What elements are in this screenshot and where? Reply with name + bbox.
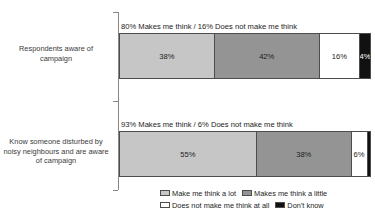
- legend-item-does-not-make-me-think-at-all[interactable]: Does not make me think at all: [160, 199, 269, 211]
- bar-respondents-aware: 38%42%16%4%: [119, 33, 371, 79]
- legend-item-make-me-think-a-lot[interactable]: Make me think a lot: [160, 187, 236, 199]
- bar-annotation-respondents-aware: 80% Makes me think / 16% Does not make m…: [121, 22, 297, 31]
- axis-tick-top: [113, 12, 118, 13]
- legend-swatch-icon: [160, 202, 170, 208]
- legend-item-label: Does not make me think at all: [172, 201, 269, 210]
- bar-segment-does-not-make-me-think-at-all: 6%: [351, 131, 367, 177]
- bar-segment-does-not-make-me-think-at-all: 16%: [319, 33, 360, 79]
- bar-segment-value: 55%: [180, 150, 195, 159]
- legend-swatch-icon: [242, 190, 252, 196]
- legend-item-don-t-know[interactable]: Don't know: [275, 199, 323, 211]
- legend-item-makes-me-think-a-little[interactable]: Makes me think a little: [242, 187, 327, 199]
- category-label-know-someone-disturbed: Know someone disturbed by noisy neighbou…: [2, 137, 110, 166]
- bar-segment-makes-me-think-a-little: 42%: [214, 33, 319, 79]
- bar-segment-value: 4%: [360, 52, 371, 61]
- bar-segment-don-t-know: [367, 131, 371, 177]
- legend-swatch-icon: [160, 190, 170, 196]
- category-label-respondents-aware: Respondents aware of campaign: [2, 44, 110, 63]
- bar-segment-make-me-think-a-lot: 38%: [119, 33, 214, 79]
- bar-annotation-know-someone-disturbed: 93% Makes me think / 6% Does not make me…: [121, 120, 293, 129]
- legend-item-label: Don't know: [287, 201, 323, 210]
- bar-segment-value: 16%: [332, 52, 347, 61]
- bar-segment-make-me-think-a-lot: 55%: [119, 131, 256, 177]
- axis-tick-middle: [113, 101, 118, 102]
- axis-tick-bottom: [113, 190, 118, 191]
- legend-item-label: Makes me think a little: [254, 189, 327, 198]
- bar-segment-makes-me-think-a-little: 38%: [256, 131, 351, 177]
- bar-segment-don-t-know: 4%: [359, 33, 371, 79]
- bar-segment-value: 38%: [159, 52, 174, 61]
- bar-segment-value: 38%: [296, 150, 311, 159]
- bar-segment-value: 42%: [259, 52, 274, 61]
- stacked-bar-chart: Respondents aware of campaign Know someo…: [0, 0, 375, 216]
- bar-segment-value: 6%: [354, 150, 365, 159]
- bar-know-someone-disturbed: 55%38%6%: [119, 131, 371, 177]
- legend-item-label: Make me think a lot: [172, 189, 236, 198]
- legend: Make me think a lotMakes me think a litt…: [160, 187, 373, 211]
- legend-swatch-icon: [275, 202, 285, 208]
